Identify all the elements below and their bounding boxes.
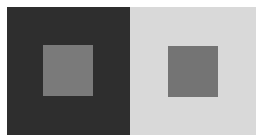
gray-square-right <box>168 46 218 97</box>
dark-background-panel <box>7 7 130 135</box>
gray-square-left <box>43 45 93 96</box>
light-background-panel <box>130 7 256 135</box>
